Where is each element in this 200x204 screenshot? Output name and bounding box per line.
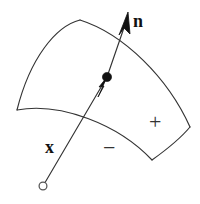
ray-origin-open-circle xyxy=(39,182,47,190)
position-vector-label: x xyxy=(45,138,54,156)
surface-edge-top-left xyxy=(17,20,80,110)
positive-side-label: + xyxy=(149,111,161,133)
figure-canvas xyxy=(0,0,200,204)
point-on-surface-dot xyxy=(102,72,111,81)
negative-side-label: − xyxy=(103,137,115,159)
normal-vector-arrowhead xyxy=(119,12,130,35)
surface-normal-figure: n x + − xyxy=(0,0,200,204)
normal-vector-label: n xyxy=(133,12,143,30)
position-vector-line xyxy=(43,77,107,186)
surface-edge-top-right xyxy=(80,20,190,127)
